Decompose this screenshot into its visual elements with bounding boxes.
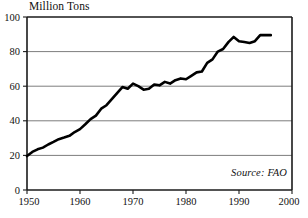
y-tick-label: 80: [10, 46, 21, 57]
y-tick-label: 60: [10, 81, 21, 92]
x-tick-label: 1990: [229, 196, 250, 207]
data-series-group: [27, 35, 271, 156]
source-annotation: Source: FAO: [231, 167, 287, 178]
x-tick-label: 1960: [70, 196, 91, 207]
data-line-0: [27, 35, 271, 156]
chart-container: Million Tons 020406080100 19501960197019…: [0, 0, 308, 218]
x-tick-label: 2000: [279, 196, 300, 207]
x-tick-label: 1950: [19, 196, 40, 207]
y-axis-labels: 020406080100: [4, 12, 20, 196]
y-tick-label: 40: [10, 115, 21, 126]
x-tick-label: 1980: [176, 196, 197, 207]
gridlines-group: [27, 52, 292, 156]
y-tick-label: 0: [15, 185, 20, 196]
y-tick-label: 20: [10, 150, 21, 161]
chart-plot: 020406080100 195019601970198019902000: [0, 0, 308, 218]
x-axis-labels: 195019601970198019902000: [19, 196, 300, 207]
x-tick-label: 1970: [123, 196, 144, 207]
y-tick-label: 100: [4, 12, 20, 23]
